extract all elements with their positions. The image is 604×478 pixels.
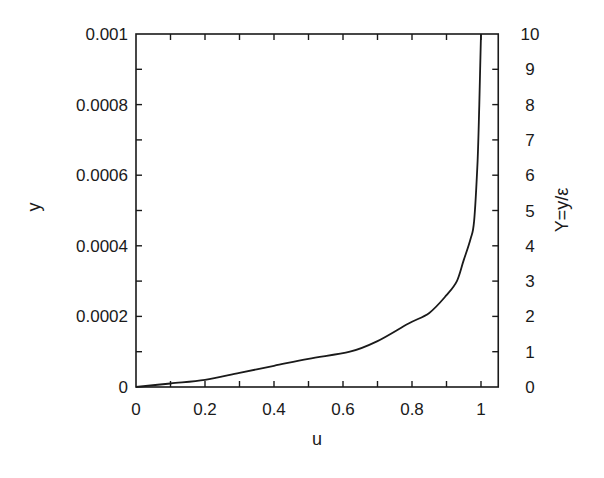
y-right-tick-label: 1 xyxy=(525,343,534,362)
y-right-tick-label: 9 xyxy=(525,60,534,79)
y-tick-label: 0.0006 xyxy=(76,166,128,185)
plot-frame xyxy=(136,34,498,387)
y-right-tick-label: 6 xyxy=(525,166,534,185)
y-right-tick-labels: 012345678910 xyxy=(521,25,540,397)
x-tick-label: 0.2 xyxy=(193,400,217,419)
x-tick-label: 0 xyxy=(131,400,140,419)
x-axis-label: u xyxy=(312,429,322,449)
y-right-axis-label: Y=y/ε xyxy=(552,188,572,233)
x-tick-label: 0.8 xyxy=(400,400,424,419)
y-right-tick-label: 0 xyxy=(525,378,534,397)
y-tick-label: 0 xyxy=(119,378,128,397)
plot-border xyxy=(136,34,498,387)
y-right-tick-label: 5 xyxy=(525,202,534,221)
x-tick-label: 0.6 xyxy=(331,400,355,419)
data-line xyxy=(136,34,481,387)
y-right-tick-label: 2 xyxy=(525,307,534,326)
y-tick-labels: 00.00020.00040.00060.00080.001 xyxy=(76,25,128,397)
axis-ticks xyxy=(136,34,498,387)
y-right-tick-label: 8 xyxy=(525,96,534,115)
y-tick-label: 0.0008 xyxy=(76,96,128,115)
chart: 00.20.40.60.81 00.00020.00040.00060.0008… xyxy=(0,0,604,478)
y-tick-label: 0.0002 xyxy=(76,307,128,326)
y-right-tick-label: 4 xyxy=(525,237,534,256)
y-axis-label: y xyxy=(24,203,44,212)
y-right-tick-label: 7 xyxy=(525,131,534,150)
y-right-tick-label: 10 xyxy=(521,25,540,44)
y-right-tick-label: 3 xyxy=(525,272,534,291)
x-tick-labels: 00.20.40.60.81 xyxy=(131,400,485,419)
y-tick-label: 0.001 xyxy=(85,25,128,44)
y-tick-label: 0.0004 xyxy=(76,237,128,256)
x-tick-label: 1 xyxy=(476,400,485,419)
x-tick-label: 0.4 xyxy=(262,400,286,419)
